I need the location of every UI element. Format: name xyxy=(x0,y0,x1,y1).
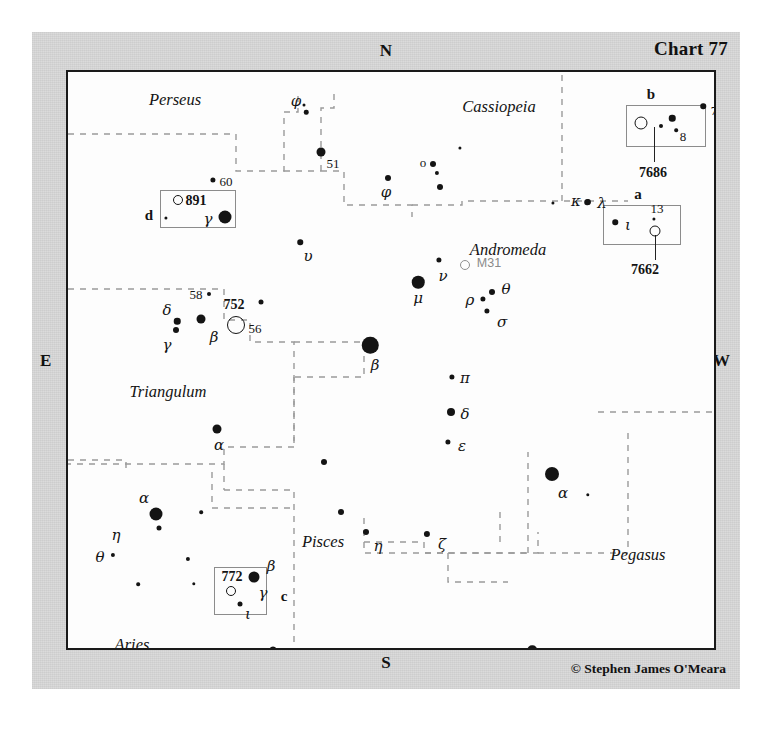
constellation-name-andromeda: Andromeda xyxy=(470,242,546,259)
star-label: θ xyxy=(501,282,510,297)
star-marker xyxy=(362,337,379,354)
star-label: φ xyxy=(291,94,302,109)
inset-label-c: γ xyxy=(259,586,268,601)
boundary-segment xyxy=(68,460,126,473)
star-marker xyxy=(136,582,140,586)
star-marker xyxy=(447,408,455,416)
inset-box-a[interactable] xyxy=(603,205,681,245)
inset-star-c xyxy=(238,602,243,607)
copyright-credit: © Stephen James O'Meara xyxy=(571,661,726,677)
star-label: μ xyxy=(413,291,423,306)
star-marker xyxy=(157,526,162,531)
constellation-name-perseus: Perseus xyxy=(149,92,201,109)
inset-catalog-number-a: 7662 xyxy=(631,263,659,277)
star-marker xyxy=(385,175,391,181)
star-label: υ xyxy=(303,249,312,264)
star-marker xyxy=(150,508,163,521)
inset-letter-d: d xyxy=(145,208,153,223)
inset-letter-c: c xyxy=(281,589,288,604)
inset-label-a: ι xyxy=(625,218,631,233)
star-marker xyxy=(437,184,443,190)
star-marker xyxy=(259,300,264,305)
inset-star-a xyxy=(584,199,590,205)
inset-nebula-d xyxy=(173,195,183,205)
star-marker xyxy=(304,110,309,115)
star-label: ν xyxy=(438,269,447,284)
inset-star-d xyxy=(219,211,232,224)
star-label: β xyxy=(371,358,380,373)
star-marker xyxy=(303,104,306,107)
inset-catalog-number-d: 891 xyxy=(186,194,207,208)
star-marker xyxy=(317,148,326,157)
star-label: α xyxy=(139,491,149,506)
star-marker xyxy=(297,239,303,245)
star-label: o xyxy=(420,156,427,169)
star-label: β xyxy=(210,330,219,345)
star-label: ζ xyxy=(438,537,446,552)
star-marker xyxy=(412,276,425,289)
star-label: η xyxy=(374,539,383,554)
star-label: π xyxy=(460,371,470,386)
inset-nebula-c xyxy=(226,586,236,596)
constellation-name-cassiopeia: Cassiopeia xyxy=(462,99,535,116)
star-marker xyxy=(173,327,179,333)
inset-nebula-a xyxy=(650,226,661,237)
inset-leader-line-b xyxy=(654,127,655,162)
star-marker xyxy=(213,425,222,434)
star-label: ε xyxy=(458,439,466,454)
inset-nebula-b xyxy=(635,117,648,130)
inset-letter-a: a xyxy=(634,187,642,202)
inset-label-a: 13 xyxy=(651,202,664,215)
star-marker xyxy=(207,292,211,296)
boundary-segment xyxy=(294,342,364,377)
constellation-name-pisces: Pisces xyxy=(302,534,344,551)
star-marker xyxy=(527,645,537,650)
constellation-name-aries: Aries xyxy=(115,637,150,650)
star-label: δ xyxy=(162,303,171,318)
star-marker xyxy=(199,510,203,514)
inset-catalog-number-b: 7686 xyxy=(639,166,667,180)
star-label: 58 xyxy=(190,288,203,301)
star-label: φ xyxy=(381,185,392,200)
deep-sky-object-marker xyxy=(460,260,470,270)
star-label: θ xyxy=(95,550,104,565)
boundary-segment xyxy=(448,553,508,582)
star-label: 56 xyxy=(249,322,262,335)
boundary-segment xyxy=(364,518,538,553)
deep-sky-object-marker xyxy=(227,316,245,334)
compass-east-label: E xyxy=(40,351,51,371)
star-label: α xyxy=(214,438,224,453)
star-marker xyxy=(174,318,181,325)
star-label: 51 xyxy=(327,157,340,170)
inset-label-d: γ xyxy=(204,212,213,227)
inset-star-b xyxy=(674,128,678,132)
inset-star-c xyxy=(249,572,260,583)
inset-leader-line-a xyxy=(655,235,656,260)
inset-star-b xyxy=(659,124,663,128)
constellation-name-pegasus: Pegasus xyxy=(611,547,666,564)
star-label: β xyxy=(267,559,276,574)
star-marker xyxy=(363,529,369,535)
star-label: α xyxy=(558,486,568,501)
boundary-segment xyxy=(538,427,628,553)
boundary-segment xyxy=(412,201,628,205)
star-marker xyxy=(321,459,327,465)
star-label: δ xyxy=(460,407,469,422)
star-label: ρ xyxy=(466,293,475,308)
star-marker xyxy=(430,161,436,167)
inset-label-c: ι xyxy=(245,607,251,622)
star-label: λ xyxy=(597,196,607,211)
inset-letter-b: b xyxy=(647,87,655,102)
star-marker xyxy=(270,647,277,651)
star-label: σ xyxy=(497,315,507,330)
chart-panel: Chart 77 N S E W © Stephen James O'Meara… xyxy=(32,32,740,689)
star-marker xyxy=(545,467,559,481)
star-label: 752 xyxy=(224,298,245,312)
star-marker xyxy=(338,509,344,515)
star-label: 60 xyxy=(220,175,233,188)
inset-star-a xyxy=(612,219,618,225)
inset-label-b: 8 xyxy=(680,130,687,143)
inset-star-b xyxy=(700,103,706,109)
star-label: γ xyxy=(163,338,172,353)
star-marker xyxy=(197,315,206,324)
